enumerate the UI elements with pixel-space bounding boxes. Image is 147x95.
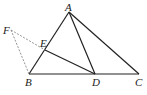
label-D: D [91,76,100,88]
label-E: E [39,37,47,49]
geometry-diagram: A B C D E F [0,0,147,95]
segment-AD [69,12,95,74]
segment-FB [11,30,29,74]
segment-ED [45,50,95,74]
segment-AC [69,12,139,74]
label-A: A [64,1,72,13]
label-B: B [25,76,32,88]
segment-AB [29,12,69,74]
label-C: C [135,76,143,88]
label-F: F [2,24,10,36]
